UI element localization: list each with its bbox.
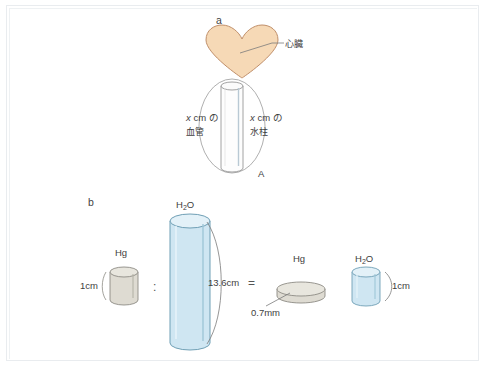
thin-disk-icon	[277, 282, 325, 303]
heart-shape-icon	[206, 25, 278, 78]
equals-symbol: =	[248, 277, 255, 289]
water-label-line1: x cm の	[250, 112, 283, 124]
h2o-height-right-label: 1cm	[392, 280, 410, 292]
hg-label-left: Hg	[115, 247, 127, 259]
h2o-right-tail: O	[366, 253, 373, 264]
water-label-rest: cm の	[255, 112, 283, 123]
heart-label: 心臓	[285, 38, 303, 50]
panel-a-letter: a	[216, 14, 222, 26]
tall-cylinder-icon	[170, 214, 210, 350]
hg-thickness-right-label: 0.7mm	[251, 307, 280, 319]
curly-brace-icon	[102, 272, 106, 300]
small-cylinder-icon	[352, 267, 380, 306]
diagram-artwork	[0, 0, 486, 367]
hg-height-left-label: 1cm	[80, 280, 98, 292]
h2o-tall-base: H	[176, 199, 183, 210]
panel-b-letter: b	[88, 196, 94, 208]
figure-canvas: a 心臓 x cm の 血管 x cm の 水柱 A b Hg 1cm : H2…	[0, 0, 486, 367]
curly-brace-icon	[385, 272, 392, 301]
ratio-symbol: :	[153, 281, 156, 293]
vessel-label-rest: cm の	[191, 112, 219, 123]
h2o-label-right: H2O	[355, 253, 373, 268]
water-label-line2: 水柱	[250, 126, 268, 138]
h2o-height-tall-label: 13.6cm	[208, 277, 239, 289]
hg-label-right: Hg	[293, 253, 305, 265]
h2o-label-tall: H2O	[176, 199, 194, 214]
small-cylinder-icon	[110, 267, 138, 305]
vessel-label-line2: 血管	[186, 126, 204, 138]
h2o-right-base: H	[355, 253, 362, 264]
vessel-label-line1: x cm の	[186, 112, 219, 124]
h2o-tall-tail: O	[187, 199, 194, 210]
point-a-label: A	[258, 168, 264, 180]
